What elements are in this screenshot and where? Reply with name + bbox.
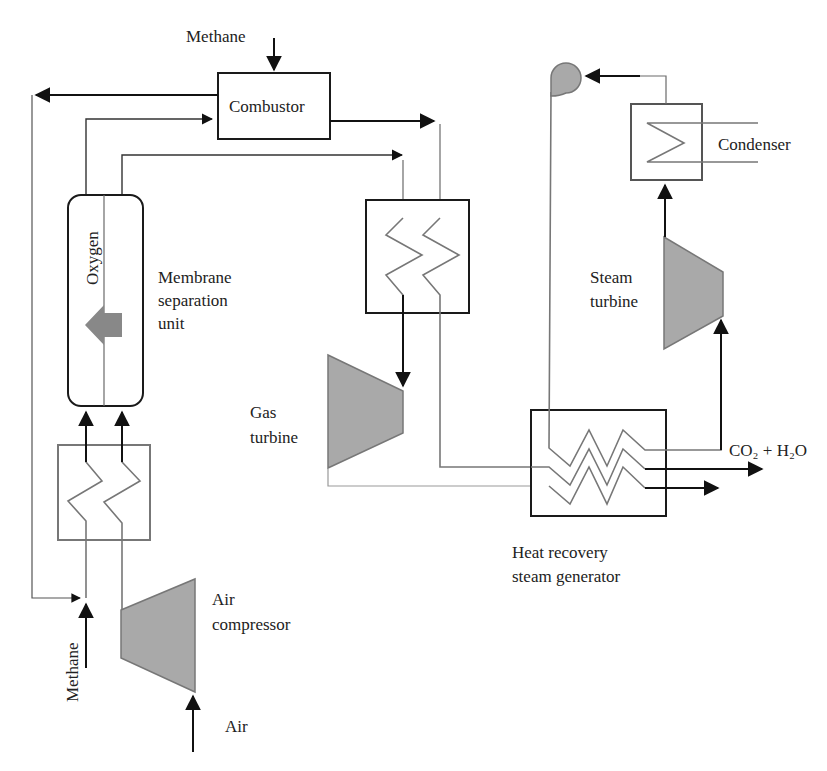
membrane-label-line1: Membrane	[158, 268, 232, 287]
compressor-label-line2: compressor	[212, 615, 291, 634]
steam-turbine-label-line1: Steam	[590, 268, 633, 287]
gas-turbine-label-line1: Gas	[250, 403, 276, 422]
exhaust-label: CO₂ + H₂O	[729, 441, 807, 460]
steam-turbine-shape	[664, 237, 723, 349]
left-hx-box	[58, 445, 150, 540]
middle-hx-box	[366, 200, 469, 313]
condensate-line	[586, 76, 666, 104]
compressor-label-line1: Air	[212, 590, 235, 609]
depleted-air-line	[122, 155, 402, 195]
gas-turbine-shape	[328, 355, 403, 468]
pump-icon	[551, 63, 581, 96]
combustor-label: Combustor	[229, 97, 305, 116]
membrane-separation-unit: Oxygen Membrane separation unit	[68, 195, 232, 406]
left-heat-exchanger	[58, 412, 150, 610]
steam-turbine-label-line2: turbine	[590, 292, 638, 311]
oxygen-label: Oxygen	[83, 231, 102, 285]
hrsg-label-line2: steam generator	[512, 567, 620, 586]
air-inlet-label: Air	[225, 717, 248, 736]
methane-bottom-label: Methane	[63, 643, 82, 702]
methane-top-label: Methane	[186, 27, 245, 46]
gas-turbine-label-line2: turbine	[250, 428, 298, 447]
methane-bottom-stream: Methane	[63, 604, 86, 702]
condenser-box	[631, 104, 702, 180]
process-flow-diagram: Methane Combustor Oxygen Membrane separa…	[0, 0, 827, 771]
combustor: Combustor	[218, 73, 330, 139]
gas-turbine-exhaust-line	[328, 468, 549, 486]
pump	[551, 63, 581, 96]
membrane-box	[68, 195, 143, 406]
membrane-label-line3: unit	[158, 314, 185, 333]
air-compressor: Air compressor Air	[121, 579, 291, 752]
condenser: Condenser	[586, 76, 791, 180]
hrsg-box	[531, 410, 666, 516]
compressor-shape	[121, 579, 195, 692]
methane-top-stream: Methane	[186, 27, 274, 70]
steam-turbine: Steam turbine	[590, 185, 723, 349]
membrane-label-line2: separation	[158, 291, 228, 310]
oxygen-to-combustor-line	[86, 119, 212, 195]
hrsg-label-line1: Heat recovery	[512, 543, 608, 562]
condenser-label: Condenser	[718, 135, 791, 154]
